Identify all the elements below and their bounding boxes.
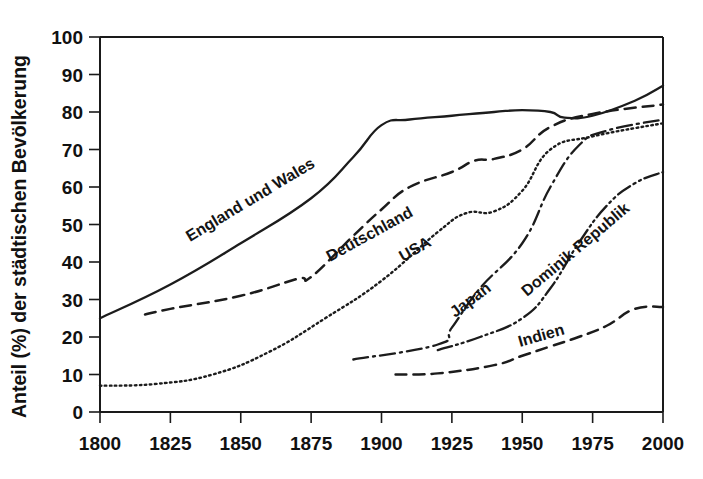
y-axis-title: Anteil (%) der städtischen Bevölkerung [8, 55, 30, 418]
y-axis-title-text: Anteil (%) der städtischen Bevölkerung [8, 55, 30, 418]
y-tick-label: 60 [62, 177, 83, 198]
x-tick-label: 1975 [571, 433, 614, 454]
y-tick-label: 70 [62, 140, 83, 161]
y-tick-label: 40 [62, 252, 83, 273]
series-label-japan: Japan [447, 279, 494, 320]
y-tick-label: 20 [62, 327, 83, 348]
x-tick-label: 1950 [501, 433, 543, 454]
y-tick-label: 90 [62, 65, 83, 86]
y-tick-label: 50 [62, 215, 83, 236]
y-tick-label: 100 [51, 27, 83, 48]
x-tick-label: 1875 [290, 433, 333, 454]
series-label-usa: USA [396, 233, 434, 265]
x-tick-label: 1825 [149, 433, 192, 454]
y-tick-label: 80 [62, 102, 83, 123]
series-label-indien: Indien [516, 321, 566, 350]
series-line-england-und-wales [100, 86, 663, 319]
chart-canvas: Anteil (%) der städtischen Bevölkerung 0… [0, 0, 703, 479]
x-tick-label: 2000 [642, 433, 684, 454]
x-tick-label: 1800 [79, 433, 121, 454]
y-tick-label: 10 [62, 365, 83, 386]
urbanization-line-chart: Anteil (%) der städtischen Bevölkerung 0… [0, 0, 703, 479]
series-label-england-und-wales: England und Wales [183, 154, 318, 244]
y-tick-label: 0 [72, 402, 83, 423]
x-tick-label: 1900 [360, 433, 402, 454]
series-label-group: England und WalesDeutschlandUSAJapanDomi… [183, 154, 633, 350]
y-axis-ticks: 0102030405060708090100 [51, 27, 100, 423]
series-label-dominik-republik: Dominik Republik [518, 199, 633, 299]
y-tick-label: 30 [62, 290, 83, 311]
x-axis-ticks: 180018251850187519001925195019752000 [79, 412, 684, 454]
series-line-japan [353, 120, 663, 360]
x-tick-label: 1925 [431, 433, 474, 454]
x-tick-label: 1850 [220, 433, 262, 454]
